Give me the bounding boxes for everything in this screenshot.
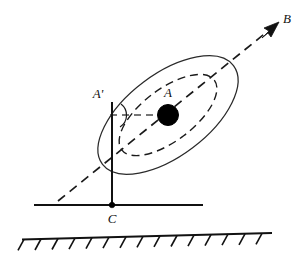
label-a-prime: A'	[92, 86, 104, 101]
pivot-point-c	[109, 202, 115, 208]
label-a: A	[163, 85, 172, 100]
mass-point-a	[158, 105, 179, 126]
physics-figure: A' A B C	[0, 0, 306, 266]
arrowhead-icon	[262, 22, 279, 38]
label-b: B	[283, 11, 291, 26]
hatched-ground-baseline	[22, 233, 272, 240]
label-c: C	[108, 211, 117, 226]
diagram-canvas: A' A B C	[0, 0, 306, 266]
hatched-ground	[18, 233, 272, 250]
